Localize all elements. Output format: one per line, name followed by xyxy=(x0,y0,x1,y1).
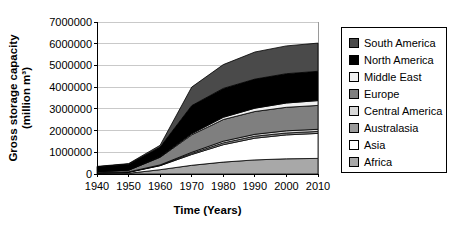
legend-item-africa: Africa xyxy=(342,153,446,170)
y-axis-title-line2: (million m³) xyxy=(20,32,33,164)
legend-item-europe: Europe xyxy=(342,85,446,102)
x-tick-label: 1940 xyxy=(85,180,109,192)
y-axis-title: Gross storage capacity (million m³) xyxy=(7,32,33,164)
x-tick-label: 2000 xyxy=(274,180,298,192)
legend-swatch-icon xyxy=(349,140,359,150)
chart-canvas: Gross storage capacity (million m³) 0100… xyxy=(0,0,455,229)
x-tick-label: 1950 xyxy=(116,180,140,192)
legend-label: Central America xyxy=(364,105,442,117)
x-tick-label: 2010 xyxy=(306,180,330,192)
y-tick-label: 1000000 xyxy=(38,147,92,158)
y-tick-label: 7000000 xyxy=(38,17,92,28)
plot-area xyxy=(97,22,318,174)
legend-item-asia: Asia xyxy=(342,136,446,153)
legend-label: North America xyxy=(364,54,434,66)
legend-swatch-icon xyxy=(349,72,359,82)
legend-label: Middle East xyxy=(364,71,421,83)
y-tick-label: 6000000 xyxy=(38,39,92,50)
y-tick-label: 5000000 xyxy=(38,60,92,71)
legend-item-australasia: Australasia xyxy=(342,119,446,136)
legend-item-south-america: South America xyxy=(342,34,446,51)
legend-swatch-icon xyxy=(349,123,359,133)
y-tick-label: 3000000 xyxy=(38,104,92,115)
x-tick-label: 1970 xyxy=(179,180,203,192)
legend-swatch-icon xyxy=(349,89,359,99)
x-tick-label: 1990 xyxy=(243,180,267,192)
y-tick-label: 2000000 xyxy=(38,126,92,137)
stacked-area-chart xyxy=(97,22,318,174)
legend-item-north-america: North America xyxy=(342,51,446,68)
legend-label: Australasia xyxy=(364,122,418,134)
legend-label: South America xyxy=(364,37,436,49)
legend-label: Africa xyxy=(364,156,392,168)
x-axis-title: Time (Years) xyxy=(97,204,318,216)
legend-item-central-america: Central America xyxy=(342,102,446,119)
y-axis-title-line1: Gross storage capacity xyxy=(7,32,20,164)
legend-label: Europe xyxy=(364,88,399,100)
legend-swatch-icon xyxy=(349,55,359,65)
y-tick-label: 0 xyxy=(38,169,92,180)
y-tick-label: 4000000 xyxy=(38,82,92,93)
legend-swatch-icon xyxy=(349,157,359,167)
x-tick-label: 1980 xyxy=(211,180,235,192)
legend-swatch-icon xyxy=(349,38,359,48)
legend-swatch-icon xyxy=(349,106,359,116)
x-tick-label: 1960 xyxy=(148,180,172,192)
legend: South AmericaNorth AmericaMiddle EastEur… xyxy=(341,27,447,173)
legend-item-middle-east: Middle East xyxy=(342,68,446,85)
legend-label: Asia xyxy=(364,139,385,151)
